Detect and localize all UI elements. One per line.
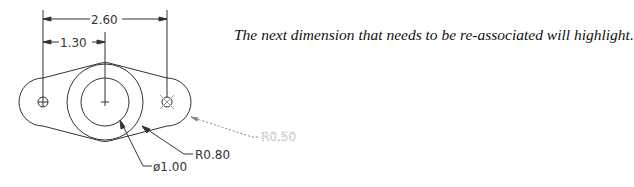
dim-text-2-60: 2.60 <box>91 13 118 27</box>
dim-text-dia100: ø1.00 <box>153 160 187 174</box>
instruction-caption: The next dimension that needs to be re-a… <box>234 26 634 44</box>
dim-text-r050-highlighted: R0.50 <box>261 130 296 144</box>
left-hole <box>38 97 48 107</box>
right-hole <box>160 95 174 109</box>
leader-dia100[interactable] <box>120 120 152 166</box>
leader-r080[interactable] <box>142 126 193 154</box>
dim-text-1-30: 1.30 <box>60 36 87 50</box>
leader-r050-highlighted[interactable] <box>191 117 260 137</box>
dim-text-r080: R0.80 <box>195 148 230 162</box>
